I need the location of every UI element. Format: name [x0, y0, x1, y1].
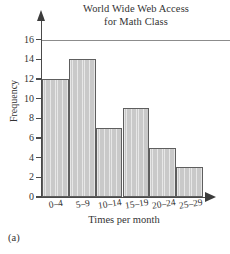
y-axis-arrow-icon [37, 10, 45, 21]
y-tick [36, 157, 42, 158]
y-tick [36, 59, 42, 60]
y-tick [36, 196, 42, 197]
y-tick-label: 2 [0, 172, 34, 182]
plot-area: 0246810121416 0–45–910–1415–1920–2425–29… [0, 0, 230, 254]
histogram-figure: World Wide Web Access for Math Class 024… [0, 0, 230, 254]
figure-part-label: (a) [8, 232, 20, 244]
reference-line-16 [42, 40, 230, 41]
y-tick-label: 0 [0, 192, 34, 202]
y-tick-label: 4 [0, 153, 34, 163]
x-axis-title: Times per month [41, 214, 207, 226]
bar [176, 167, 203, 197]
y-tick [36, 98, 42, 99]
bar [123, 108, 150, 197]
y-tick-label: 16 [0, 35, 34, 45]
bar [42, 79, 69, 197]
y-tick [36, 118, 42, 119]
bar [69, 59, 96, 197]
bar [96, 128, 123, 197]
y-tick [36, 137, 42, 138]
bar [149, 148, 176, 197]
y-tick [36, 177, 42, 178]
y-tick [36, 39, 42, 40]
y-tick [36, 78, 42, 79]
y-axis-title: Frequency [9, 61, 19, 141]
